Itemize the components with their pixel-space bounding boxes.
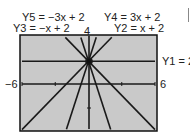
label-y2: Y2 = x + 2	[114, 23, 164, 34]
intersection-point	[86, 58, 92, 64]
label-xmax: 6	[160, 79, 166, 90]
label-xmin: −6	[5, 79, 18, 90]
label-ymax: 4	[84, 26, 90, 37]
label-y3: Y3 = −x + 2	[13, 23, 70, 34]
label-y1: Y1 = 2	[162, 56, 190, 67]
edge-marker	[188, 8, 189, 22]
